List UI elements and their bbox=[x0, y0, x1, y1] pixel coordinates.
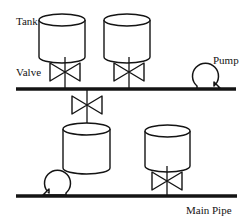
tank-label: Tank bbox=[16, 15, 38, 27]
valve-label: Valve bbox=[16, 66, 41, 78]
tank-middle bbox=[63, 123, 110, 174]
schematic-canvas: Tank Valve Pump Main Pipe bbox=[0, 0, 250, 224]
pump-upper-right[interactable] bbox=[193, 63, 221, 88]
pump-label: Pump bbox=[213, 54, 239, 66]
piping-schematic-diagram: Tank Valve Pump Main Pipe bbox=[0, 0, 250, 224]
tank-top-right bbox=[104, 14, 150, 63]
tank-top-left bbox=[39, 14, 85, 63]
tank-bottom-right bbox=[145, 125, 190, 172]
pump-lower-left[interactable] bbox=[43, 170, 71, 195]
main-pipe-label: Main Pipe bbox=[186, 204, 232, 216]
